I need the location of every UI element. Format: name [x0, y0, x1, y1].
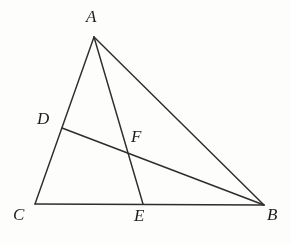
vertex-label-C: C [13, 206, 24, 223]
segment-AB [94, 37, 264, 205]
vertex-label-B: B [267, 206, 277, 223]
vertex-label-E: E [134, 207, 144, 224]
segment-DB [62, 128, 264, 205]
segment-CB [35, 204, 264, 205]
vertex-label-A: A [86, 8, 96, 25]
geometry-figure: A D F C E B [0, 0, 291, 244]
vertex-label-D: D [37, 110, 49, 127]
vertex-label-F: F [131, 128, 141, 145]
